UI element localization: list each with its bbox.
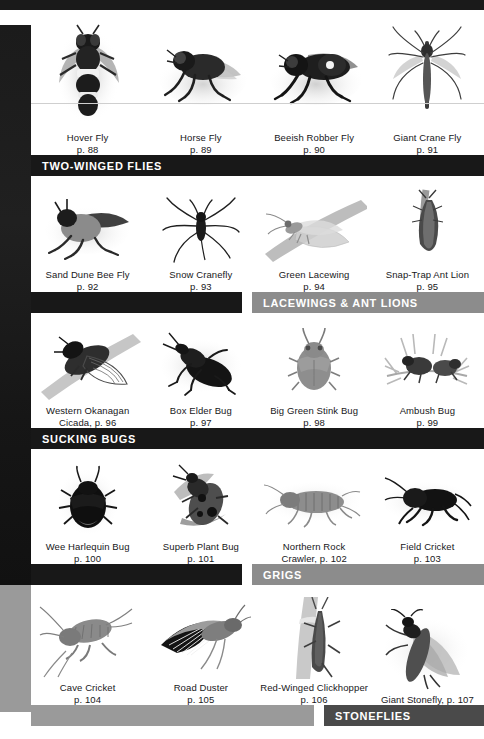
row-gap (31, 313, 484, 321)
box-elder-bug-illustration (144, 324, 257, 402)
field-guide-plate-page: Hover Fly p. 88 (0, 0, 484, 739)
hover-fly-illustration (31, 19, 144, 129)
field-cricket-illustration (371, 460, 484, 538)
northern-rock-crawler-illustration (258, 460, 371, 538)
band-grigs: GRIGS (252, 564, 484, 585)
band-row: SUCKING BUGS (31, 428, 484, 449)
plate-caption: Sand Dune Bee Fly p. 92 (46, 266, 130, 292)
plate-row-beeflies: Sand Dune Bee Fly p. 92 (31, 184, 484, 292)
plate-caption: Giant Crane Fly p. 91 (393, 129, 461, 155)
band-label: SUCKING BUGS (31, 433, 136, 445)
plate-caption: Big Green Stink Bug p. 98 (270, 402, 358, 428)
band-label: GRIGS (252, 569, 302, 581)
band-spacer-left (31, 564, 242, 585)
plate-item[interactable]: Horse Fly p. 89 (144, 10, 257, 155)
giant-stonefly-illustration (371, 607, 484, 691)
band-row: STONEFLIES (31, 705, 484, 726)
band-spacer-left (31, 705, 314, 726)
cave-cricket-illustration (31, 595, 144, 679)
plate-caption: Superb Plant Bug p. 101 (163, 538, 239, 564)
plate-row-grigs: Wee Harlequin Bug p. 100 (31, 457, 484, 564)
ambush-bug-illustration (371, 324, 484, 402)
plate-caption: Cave Cricket p. 104 (60, 679, 116, 705)
superb-plant-bug-illustration (144, 460, 257, 538)
plate-caption: Hover Fly p. 88 (67, 129, 109, 155)
left-gray-column (0, 585, 31, 712)
plate-caption: Green Lacewing p. 94 (279, 266, 350, 292)
row-gap (31, 449, 484, 457)
plate-item[interactable]: Field Cricket p. 103 (371, 457, 484, 564)
red-winged-clickhopper-illustration (258, 595, 371, 679)
plate-caption: Giant Stonefly, p. 107 (381, 691, 474, 706)
plate-row-flies: Hover Fly p. 88 (31, 10, 484, 155)
band-stoneflies: STONEFLIES (324, 705, 484, 726)
plate-item[interactable]: Giant Stonefly, p. 107 (371, 593, 484, 705)
band-two-winged-flies: TWO-WINGED FLIES (31, 155, 484, 176)
big-green-stink-bug-illustration (258, 324, 371, 402)
plate-caption: Red-Winged Clickhopper p. 106 (260, 679, 368, 705)
snap-trap-ant-lion-illustration (371, 186, 484, 266)
plate-item[interactable]: Box Elder Bug p. 97 (144, 321, 257, 428)
plate-row-stoneflies: Cave Cricket p. 104 (31, 593, 484, 705)
band-spacer-left (31, 292, 242, 313)
plate-item[interactable]: Green Lacewing p. 94 (258, 184, 371, 292)
band-label: LACEWINGS & ANT LIONS (252, 297, 418, 309)
plate-item[interactable]: Giant Crane Fly p. 91 (371, 10, 484, 155)
horse-fly-illustration (144, 19, 257, 129)
plate-caption: Ambush Bug p. 99 (400, 402, 455, 428)
content-column: Hover Fly p. 88 (31, 10, 484, 739)
plate-caption: Beeish Robber Fly p. 90 (274, 129, 354, 155)
plate-item[interactable]: Big Green Stink Bug p. 98 (258, 321, 371, 428)
row-gap (31, 585, 484, 593)
plate-item[interactable]: Snow Cranefly p. 93 (144, 184, 257, 292)
top-rule (0, 0, 484, 10)
sand-dune-bee-fly-illustration (31, 186, 144, 266)
plate-item[interactable]: Cave Cricket p. 104 (31, 593, 144, 705)
plate-item[interactable]: Ambush Bug p. 99 (371, 321, 484, 428)
plate-caption: Road Duster p. 105 (174, 679, 228, 705)
road-duster-illustration (144, 595, 257, 679)
band-row: LACEWINGS & ANT LIONS (31, 292, 484, 313)
band-row: TWO-WINGED FLIES (31, 155, 484, 176)
plate-item[interactable]: Northern Rock Crawler, p. 102 (258, 457, 371, 564)
plate-caption: Snow Cranefly p. 93 (169, 266, 232, 292)
band-row: GRIGS (31, 564, 484, 585)
plate-item[interactable]: Red-Winged Clickhopper p. 106 (258, 593, 371, 705)
left-dark-column (0, 25, 31, 585)
plate-item[interactable]: Road Duster p. 105 (144, 593, 257, 705)
plate-caption: Horse Fly p. 89 (180, 129, 222, 155)
green-lacewing-illustration (258, 186, 371, 266)
row-gap (31, 176, 484, 184)
band-lacewings: LACEWINGS & ANT LIONS (252, 292, 484, 313)
plate-caption: Wee Harlequin Bug p. 100 (46, 538, 130, 564)
band-label: STONEFLIES (324, 710, 411, 722)
plate-caption: Box Elder Bug p. 97 (170, 402, 232, 428)
plate-item[interactable]: Wee Harlequin Bug p. 100 (31, 457, 144, 564)
wee-harlequin-bug-illustration (31, 460, 144, 538)
plate-item[interactable]: Beeish Robber Fly p. 90 (258, 10, 371, 155)
giant-crane-fly-illustration (371, 19, 484, 129)
plate-row-bugs: Western Okanagan Cicada, p. 96 (31, 321, 484, 428)
plate-item[interactable]: Snap-Trap Ant Lion p. 95 (371, 184, 484, 292)
plate-item[interactable]: Sand Dune Bee Fly p. 92 (31, 184, 144, 292)
plate-caption: Western Okanagan Cicada, p. 96 (46, 402, 129, 428)
plate-caption: Field Cricket p. 103 (400, 538, 454, 564)
band-sucking-bugs: SUCKING BUGS (31, 428, 484, 449)
horizontal-hairline (31, 103, 484, 104)
plate-caption: Snap-Trap Ant Lion p. 95 (386, 266, 469, 292)
snow-cranefly-illustration (144, 186, 257, 266)
plate-item[interactable]: Hover Fly p. 88 (31, 10, 144, 155)
plate-caption: Northern Rock Crawler, p. 102 (281, 538, 346, 564)
beeish-robber-fly-illustration (258, 19, 371, 129)
plate-item[interactable]: Western Okanagan Cicada, p. 96 (31, 321, 144, 428)
western-okanagan-cicada-illustration (31, 324, 144, 402)
band-label: TWO-WINGED FLIES (31, 160, 162, 172)
plate-item[interactable]: Superb Plant Bug p. 101 (144, 457, 257, 564)
